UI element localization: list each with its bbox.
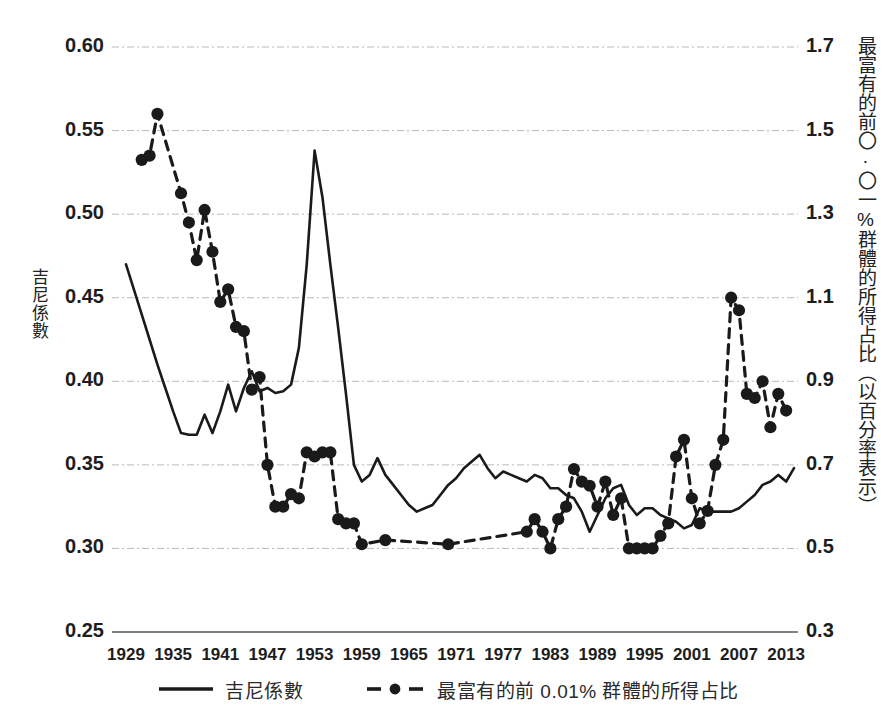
left-tick-0.40: 0.40 [42,368,104,391]
right-tick-0.5: 0.5 [806,535,856,558]
data-point [686,492,698,504]
left-tick-0.45: 0.45 [42,285,104,308]
data-point [544,542,556,554]
legend-dashed-marker-icon [365,681,427,697]
data-point [348,517,360,529]
data-point [552,513,564,525]
data-point [293,492,305,504]
data-point [780,404,792,416]
left-tick-0.25: 0.25 [42,619,104,642]
series-line-0 [126,151,794,532]
data-point [709,459,721,471]
data-point [646,542,658,554]
data-point [694,517,706,529]
data-point [678,434,690,446]
chart-canvas [112,36,798,636]
data-point [214,296,226,308]
right-tick-1.1: 1.1 [806,285,856,308]
data-point [261,459,273,471]
chart-figure: 吉尼係數 最富有的前〇·〇一%群體的所得占比（以百分率表示） 0.600.550… [0,0,896,706]
data-point [206,246,218,258]
data-point [607,509,619,521]
data-point [183,216,195,228]
data-point [764,421,776,433]
data-point [536,526,548,538]
data-point [670,450,682,462]
data-point [529,513,541,525]
data-point [772,388,784,400]
legend-label-top-share: 最富有的前 0.01% 群體的所得占比 [437,676,739,703]
left-tick-0.55: 0.55 [42,118,104,141]
data-point [662,517,674,529]
data-point [324,446,336,458]
data-point [615,492,627,504]
data-point [277,501,289,513]
data-point [175,187,187,199]
right-tick-0.3: 0.3 [806,619,856,642]
left-tick-0.35: 0.35 [42,452,104,475]
data-point [591,501,603,513]
data-point [560,501,572,513]
data-point [701,505,713,517]
data-point [756,375,768,387]
left-tick-0.50: 0.50 [42,201,104,224]
left-tick-0.60: 0.60 [42,34,104,57]
data-point [198,204,210,216]
data-point [749,392,761,404]
right-tick-1.5: 1.5 [806,118,856,141]
data-point [379,534,391,546]
legend-solid-line-icon [157,682,215,696]
data-point [356,538,368,550]
data-point [521,526,533,538]
legend-label-gini: 吉尼係數 [225,676,303,703]
data-point [238,325,250,337]
data-point [191,254,203,266]
data-point [733,304,745,316]
data-point [725,292,737,304]
data-point [717,434,729,446]
data-point [599,475,611,487]
data-point [568,463,580,475]
data-point [246,384,258,396]
chart-legend: 吉尼係數 最富有的前 0.01% 群體的所得占比 [0,672,896,706]
right-tick-0.7: 0.7 [806,452,856,475]
data-point [254,371,266,383]
data-point [143,150,155,162]
right-tick-1.3: 1.3 [806,201,856,224]
right-tick-0.9: 0.9 [806,368,856,391]
data-point [584,480,596,492]
plot-area [112,36,798,636]
data-point [442,538,454,550]
data-point [222,283,234,295]
x-tick-2013: 2013 [756,645,816,665]
legend-item-gini[interactable]: 吉尼係數 [157,676,303,703]
data-point [151,108,163,120]
left-tick-0.30: 0.30 [42,535,104,558]
data-point [654,530,666,542]
right-tick-1.7: 1.7 [806,34,856,57]
legend-item-top-share[interactable]: 最富有的前 0.01% 群體的所得占比 [365,676,739,703]
